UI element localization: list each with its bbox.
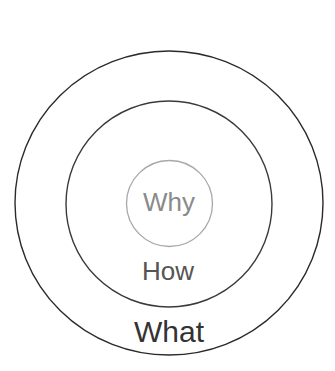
why-label: Why [143,187,195,217]
golden-circle-diagram: Why How What [0,0,335,371]
how-label: How [142,256,194,286]
what-label: What [134,315,205,348]
